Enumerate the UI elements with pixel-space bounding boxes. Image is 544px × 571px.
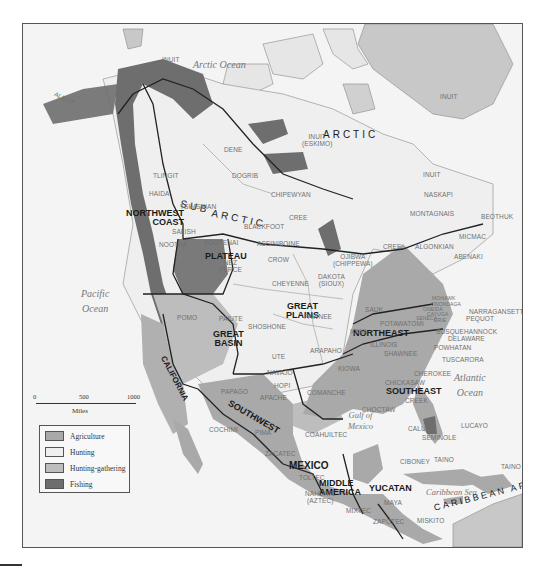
- people-inuit-eskimo: INUIT (ESKIMO): [302, 134, 332, 147]
- people-nootka: NOOTKA: [159, 242, 187, 249]
- people-kootenai: KOOTENAI: [204, 240, 238, 247]
- people-tsimshian: TSIMSHIAN: [180, 204, 216, 211]
- legend-item-fishing: Fishing: [45, 479, 93, 489]
- people-pequot: PEQUOT: [466, 316, 494, 323]
- legend-label-agriculture: Agriculture: [70, 432, 105, 441]
- legend-swatch-agriculture: [45, 431, 64, 441]
- people-crow: CROW: [268, 257, 289, 264]
- people-toltec: TOLTEC: [299, 475, 325, 482]
- legend-swatch-hunting-gathering: [45, 463, 64, 473]
- ocean-atlantic-line1: Atlantic: [454, 370, 486, 385]
- people-shoshone: SHOSHONE: [248, 324, 286, 331]
- people-pima: PIMA: [255, 430, 271, 437]
- people-chipewyan: CHIPEWYAN: [271, 192, 311, 199]
- people-hopi: HOPI: [274, 383, 290, 390]
- region-mexico: MEXICO: [289, 461, 328, 472]
- ocean-arctic: Arctic Ocean: [193, 57, 246, 72]
- people-inuit-eskimo-line2: (ESKIMO): [302, 141, 332, 148]
- people-ute: UTE: [272, 354, 285, 361]
- legend-label-hunting: Hunting: [70, 448, 95, 457]
- people-nahuatl-line2: (AZTEC): [305, 498, 336, 505]
- people-lucayo: LUCAYO: [461, 423, 488, 430]
- people-abenaki: ABENAKI: [454, 254, 483, 261]
- people-navajo: NAVAJO: [267, 370, 293, 377]
- people-seminole: SEMINOLE: [422, 435, 456, 442]
- ocean-pacific: Pacific Ocean: [81, 286, 109, 316]
- ocean-pacific-line2: Ocean: [81, 301, 109, 316]
- people-haida: HAIDA: [149, 191, 169, 198]
- legend-swatch-hunting: [45, 447, 64, 457]
- scale-unit: Miles: [72, 407, 88, 415]
- people-tlingit: TLINGIT: [153, 173, 179, 180]
- people-cree-west: CREE: [289, 215, 307, 222]
- people-creek: CREEK: [405, 398, 428, 405]
- region-great-basin: GREAT BASIN: [213, 330, 244, 349]
- people-chickasaw: CHICKASAW: [385, 380, 425, 387]
- people-zapotec: ZAPOTEC: [373, 519, 404, 526]
- scale-tick-0: 0: [33, 393, 36, 400]
- ocean-pacific-line1: Pacific: [81, 286, 109, 301]
- scale-line: [36, 403, 136, 404]
- people-apache: APACHE: [260, 395, 287, 402]
- people-ojibwa: OJIBWA (CHIPPEWA): [333, 254, 373, 267]
- region-great-basin-line2: BASIN: [213, 339, 244, 348]
- people-maya: MAYA: [384, 500, 402, 507]
- people-calusa: CALUSA: [408, 426, 435, 433]
- ocean-atlantic: Atlantic Ocean: [454, 370, 486, 400]
- people-paiute: PAIUTE: [219, 316, 243, 323]
- people-kiowa: KIOWA: [338, 366, 360, 373]
- corner-rule: [0, 564, 22, 566]
- people-arapaho: ARAPAHO: [310, 348, 342, 355]
- people-erie: ERIE: [434, 318, 446, 323]
- people-ojibwa-line2: (CHIPPEWA): [333, 261, 373, 268]
- people-pawnee: PAWNEE: [304, 314, 332, 321]
- region-yucatan: YUCATAN: [369, 484, 412, 493]
- people-inuit-west: INUIT: [162, 57, 179, 64]
- people-algonkian: ALGONKIAN: [415, 244, 454, 251]
- people-nez-perce-line2: PERCE: [219, 267, 242, 274]
- scale-tick-500: 500: [79, 393, 89, 400]
- people-cree-east: CREE: [383, 244, 401, 251]
- people-dakota: DAKOTA (SIOUX): [318, 274, 345, 287]
- people-micmac: MICMAC: [459, 234, 486, 241]
- people-dene: DENE: [224, 147, 242, 154]
- people-potawatomi: POTAWATOMI: [380, 321, 424, 328]
- people-papago: PAPAGO: [221, 389, 248, 396]
- people-coahuiltec: COAHUILTEC: [305, 432, 347, 439]
- legend-label-fishing: Fishing: [70, 480, 93, 489]
- people-beothuk: BEOTHUK: [481, 214, 513, 221]
- people-choctaw: CHOCTAW: [362, 407, 396, 414]
- legend-swatch-fishing: [45, 479, 64, 489]
- legend-item-hunting-gathering: Hunting-gathering: [45, 463, 125, 473]
- people-naskapi: NASKAPI: [424, 192, 453, 199]
- people-dogrib: DOGRIB: [232, 173, 258, 180]
- people-pomo: POMO: [177, 315, 197, 322]
- people-cheyenne: CHEYENNE: [272, 281, 309, 288]
- people-delaware: DELAWARE: [448, 336, 485, 343]
- people-taino-hispaniola: TAINO: [501, 464, 521, 471]
- people-nahuatl: NAHUATL (AZTEC): [305, 491, 336, 504]
- people-cherokee: CHEROKEE: [414, 371, 451, 378]
- people-blackfoot: BLACKFOOT: [244, 224, 284, 231]
- people-mixtec: MIXTEC: [346, 508, 371, 515]
- people-sauk: SAUK: [365, 307, 383, 314]
- people-shawnee: SHAWNEE: [384, 351, 417, 358]
- people-iowa: IOWA: [350, 329, 368, 336]
- legend-item-hunting: Hunting: [45, 447, 95, 457]
- region-northwest-coast: NORTHWEST COAST: [126, 209, 184, 228]
- people-assiniboine: ASSINIBOINE: [257, 241, 300, 248]
- people-nez-perce: NEZ PERCE: [219, 260, 242, 273]
- ocean-gulf-line2: Mexico: [348, 421, 373, 432]
- region-northwest-coast-line2: COAST: [126, 218, 184, 227]
- people-taino-cuba: TAINO: [434, 457, 454, 464]
- people-cochimi: COCHIMI: [209, 427, 238, 434]
- people-inuit-labrador: INUIT: [423, 172, 440, 179]
- legend-label-hunting-gathering: Hunting-gathering: [70, 464, 125, 473]
- ocean-atlantic-line2: Ocean: [454, 385, 486, 400]
- people-powhatan: POWHATAN: [434, 345, 471, 352]
- people-inuit-greenland: INUIT: [440, 94, 457, 101]
- people-zacatec: ZACATEC: [265, 451, 296, 458]
- legend: Agriculture Hunting Hunting-gathering Fi…: [39, 425, 130, 493]
- people-tuscarora: TUSCARORA: [442, 357, 484, 364]
- legend-item-agriculture: Agriculture: [45, 431, 105, 441]
